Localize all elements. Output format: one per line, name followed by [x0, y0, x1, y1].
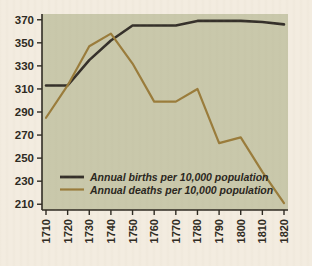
x-axis-tick-label: 1790: [213, 219, 225, 243]
x-axis-tick-label: 1730: [83, 219, 95, 243]
line-chart: 210230250270290310330350370 171017201730…: [0, 0, 312, 266]
y-axis-tick-labels: 210230250270290310330350370: [15, 14, 34, 210]
y-axis-tick-label: 270: [15, 129, 34, 141]
y-axis-tick-label: 290: [15, 106, 34, 118]
x-axis-tick-label: 1770: [170, 219, 182, 243]
x-axis-tick-label: 1710: [40, 219, 52, 243]
y-axis-tick-label: 330: [15, 60, 34, 72]
x-axis-tick-label: 1780: [191, 219, 203, 243]
y-axis-tick-label: 370: [15, 14, 34, 26]
legend-label-deaths: Annual deaths per 10,000 population: [89, 184, 273, 196]
chart-figure: 210230250270290310330350370 171017201730…: [0, 0, 312, 266]
x-axis-tick-label: 1720: [62, 219, 74, 243]
x-axis-tick-label: 1760: [148, 219, 160, 243]
legend-label-births: Annual births per 10,000 population: [89, 171, 269, 183]
chart-legend: Annual births per 10,000 populationAnnua…: [60, 171, 273, 196]
y-axis-tick-label: 350: [15, 37, 34, 49]
x-axis-tick-label: 1800: [235, 219, 247, 243]
y-axis-tick-label: 230: [15, 175, 34, 187]
y-axis-tick-label: 250: [15, 152, 34, 164]
x-axis-tick-label: 1810: [256, 219, 268, 243]
x-axis-tick-label: 1820: [278, 219, 290, 243]
y-axis-tick-label: 310: [15, 83, 34, 95]
y-axis-tick-label: 210: [15, 198, 34, 210]
x-axis-tick-label: 1740: [105, 219, 117, 243]
x-axis-tick-label: 1750: [127, 219, 139, 243]
